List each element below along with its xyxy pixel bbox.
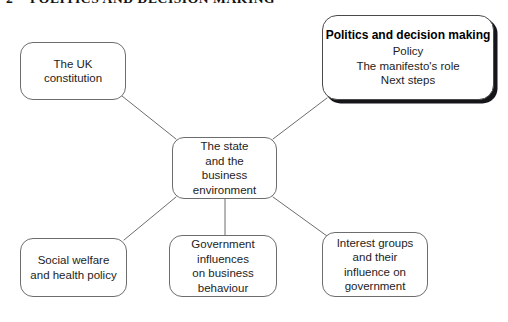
- connector-hub-to-social-welfare: [124, 197, 176, 240]
- node-line: The manifesto's role: [356, 59, 459, 74]
- node-line: environment: [193, 183, 256, 198]
- page-canvas: 2POLITICS AND DECISION MAKING The UK con…: [0, 0, 508, 322]
- node-line: The UK: [54, 57, 93, 72]
- node-line: on business: [192, 266, 253, 281]
- node-line: and the: [205, 154, 243, 169]
- node-line: business: [202, 168, 247, 183]
- node-politics-and-decision-making[interactable]: Politics and decision making Policy The …: [322, 15, 494, 100]
- node-line: and their: [353, 250, 398, 265]
- node-state-and-business-environment[interactable]: The state and the business environment: [172, 137, 277, 199]
- node-line: Social welfare: [38, 253, 110, 268]
- node-line: influence on: [344, 265, 406, 280]
- node-line: and health policy: [30, 268, 116, 283]
- node-uk-constitution[interactable]: The UK constitution: [20, 42, 126, 100]
- connector-politics-to-hub: [273, 98, 327, 139]
- connector-hub-to-interest-groups: [273, 197, 327, 236]
- node-line: influences: [197, 252, 249, 267]
- node-line: behaviour: [198, 281, 249, 296]
- node-line: Government: [191, 237, 254, 252]
- node-line: Interest groups: [337, 236, 414, 251]
- node-line: Policy: [393, 44, 424, 59]
- node-title: Politics and decision making: [326, 27, 491, 43]
- node-line: government: [345, 279, 406, 294]
- node-social-welfare-and-health-policy[interactable]: Social welfare and health policy: [20, 238, 127, 297]
- connector-uk-constitution-to-hub: [122, 96, 176, 139]
- node-line: The state: [201, 139, 249, 154]
- node-line: Next steps: [381, 73, 435, 88]
- node-government-influences-on-business-behaviour[interactable]: Government influences on business behavi…: [169, 235, 277, 297]
- node-interest-groups-and-their-influence-on-government[interactable]: Interest groups and their influence on g…: [322, 232, 428, 297]
- node-line: constitution: [44, 71, 102, 86]
